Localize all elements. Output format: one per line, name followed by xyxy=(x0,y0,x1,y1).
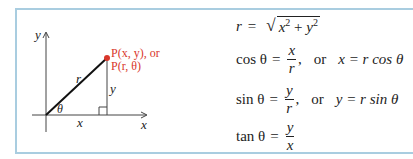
formula-cos: cos θ = xr , or x = r cos θ xyxy=(236,43,403,76)
polar-coordinates-diagram xyxy=(0,0,220,159)
formula-r-lhs: r xyxy=(236,18,242,35)
point-label-line2: P(r, θ) xyxy=(111,59,141,74)
numerator: y xyxy=(285,83,294,100)
or-text: or xyxy=(314,51,327,68)
sin-fn: sin θ xyxy=(236,91,264,108)
cos-fn: cos θ xyxy=(236,51,267,68)
adjacent-label: x xyxy=(77,115,83,131)
exponent: 2 xyxy=(313,17,318,28)
equals-sign: = xyxy=(270,128,278,145)
numerator: x xyxy=(287,43,296,60)
x-axis-label: x xyxy=(141,117,147,133)
sqrt-icon: √ xyxy=(266,16,275,36)
point-p-icon xyxy=(104,55,110,61)
sin-fraction: yr xyxy=(285,83,294,116)
cos-fraction: xr xyxy=(287,43,296,76)
formula-sin: sin θ = yr , or y = r sin θ xyxy=(236,83,398,116)
denominator: r xyxy=(289,60,295,76)
denominator: x xyxy=(287,137,294,153)
sin-rhs: y = r sin θ xyxy=(336,91,399,108)
denominator: r xyxy=(286,100,292,116)
exponent: 2 xyxy=(285,17,290,28)
angle-label: θ xyxy=(57,102,63,117)
or-text: or xyxy=(311,91,324,108)
formula-tan: tan θ = yx xyxy=(236,120,296,153)
equals-sign: = xyxy=(269,91,277,108)
opposite-label: y xyxy=(110,81,116,97)
tan-fn: tan θ xyxy=(236,128,265,145)
plus-sign: + xyxy=(294,19,302,35)
comma: , xyxy=(298,51,302,68)
right-angle-icon xyxy=(99,107,107,115)
equals-sign: = xyxy=(248,18,256,35)
formula-r: r = √x2 + y2 xyxy=(236,16,320,36)
radicand: x2 + y2 xyxy=(277,16,320,36)
tan-fraction: yx xyxy=(286,120,295,153)
hypotenuse-label: r xyxy=(76,71,81,87)
comma: , xyxy=(296,91,300,108)
radicand-y: y xyxy=(306,19,313,35)
equals-sign: = xyxy=(272,51,280,68)
numerator: y xyxy=(286,120,295,137)
y-axis-label: y xyxy=(35,27,41,43)
cos-rhs: x = r cos θ xyxy=(338,51,403,68)
